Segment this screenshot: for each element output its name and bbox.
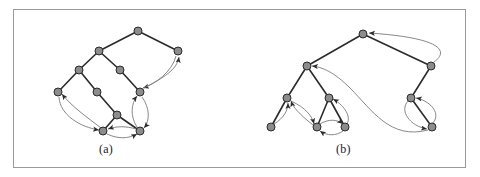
back-edge xyxy=(291,101,314,124)
back-edge xyxy=(320,131,343,135)
graph-node[interactable] xyxy=(174,47,182,55)
back-edge xyxy=(108,127,136,129)
graph-b-tree-edges xyxy=(271,34,432,127)
tree-edge xyxy=(97,92,117,115)
tree-edge xyxy=(307,34,363,66)
figure-page: (a) (b) xyxy=(0,0,480,177)
back-edge xyxy=(143,56,176,88)
panel-caption-a: (a) xyxy=(99,142,113,157)
tree-edge xyxy=(271,98,287,127)
tree-edge xyxy=(363,34,431,66)
graph-node[interactable] xyxy=(267,123,275,131)
back-edge xyxy=(369,33,441,62)
graph-node[interactable] xyxy=(428,123,436,131)
graph-node[interactable] xyxy=(99,127,107,135)
tree-edge xyxy=(99,31,138,51)
tree-edge xyxy=(287,66,307,98)
tree-edge xyxy=(411,66,431,98)
graph-node[interactable] xyxy=(95,47,103,55)
graph-node[interactable] xyxy=(359,30,367,38)
tree-edge xyxy=(307,66,329,98)
back-edge xyxy=(320,120,343,124)
back-edge xyxy=(107,134,137,138)
back-edge xyxy=(59,97,99,130)
graph-node[interactable] xyxy=(54,88,62,96)
back-edge xyxy=(62,94,101,128)
graph-node[interactable] xyxy=(341,123,349,131)
graph-illustration xyxy=(0,0,480,177)
graph-node[interactable] xyxy=(407,94,415,102)
back-edge xyxy=(142,97,148,128)
graph-node[interactable] xyxy=(136,127,144,135)
graph-node[interactable] xyxy=(113,111,121,119)
graph-node[interactable] xyxy=(93,88,101,96)
tree-edge xyxy=(329,98,345,127)
graph-node[interactable] xyxy=(134,27,142,35)
graph-b-back-edges xyxy=(274,33,441,135)
tree-edge xyxy=(138,31,178,51)
graph-node[interactable] xyxy=(116,66,124,74)
back-edge xyxy=(132,96,137,127)
graph-node[interactable] xyxy=(136,88,144,96)
graph-node[interactable] xyxy=(303,62,311,70)
graph-node[interactable] xyxy=(325,94,333,102)
back-edge xyxy=(274,103,288,124)
graph-a xyxy=(54,27,182,138)
graph-node[interactable] xyxy=(75,66,83,74)
graph-node[interactable] xyxy=(313,123,321,131)
graph-node[interactable] xyxy=(283,94,291,102)
panel-caption-b: (b) xyxy=(336,142,351,157)
graph-b-nodes xyxy=(267,30,436,131)
tree-edge xyxy=(58,70,79,92)
graph-b xyxy=(267,30,441,135)
graph-node[interactable] xyxy=(427,62,435,70)
back-edge xyxy=(291,101,313,125)
tree-edge xyxy=(411,98,432,127)
